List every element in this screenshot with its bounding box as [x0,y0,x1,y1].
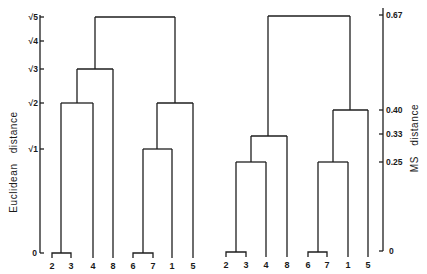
right-tick-label: 0.40 [386,105,403,115]
right-dendrogram: 0.67 0.40 0.33 0.25 0 MS distance [223,8,420,270]
leaf-label: 5 [190,261,195,271]
merge-2-3 [226,252,246,257]
leaf-label: 7 [324,260,329,270]
leaf-label: 6 [130,261,135,271]
left-tick-label: √1 [29,144,39,154]
right-tree-branches [226,16,368,257]
leaf-label: 4 [90,261,95,271]
leaf-label: 3 [68,261,73,271]
dendrogram-figure: √5 √4 √3 √2 √1 0 Euclidean distance [0,0,427,274]
leaf-label: 7 [150,261,155,271]
leaf-label: 2 [223,260,228,270]
right-tick-label: 0.25 [386,157,403,167]
left-axis-title: Euclidean distance [8,111,19,213]
left-tick-label: 0 [32,248,37,258]
leaf-label: 1 [169,261,174,271]
left-tick-label: √3 [29,64,39,74]
leaf-label: 5 [365,260,370,270]
merge-2-3 [52,253,71,258]
left-tick-label: √5 [29,12,39,22]
leaf-label: 1 [345,260,350,270]
right-y-axis: 0.67 0.40 0.33 0.25 0 MS distance [379,8,420,256]
left-dendrogram: √5 √4 √3 √2 √1 0 Euclidean distance [8,12,196,271]
leaf-label: 4 [263,260,268,270]
left-leaf-labels: 2 3 4 8 6 7 1 5 [49,261,195,271]
right-tick-label: 0.67 [386,10,403,20]
left-tick-label: √2 [29,98,39,108]
leaf-label: 6 [305,260,310,270]
leaf-label: 2 [49,261,54,271]
right-leaf-labels: 2 3 4 8 6 7 1 5 [223,260,370,270]
right-axis-title: MS distance [409,104,420,172]
left-y-axis: √5 √4 √3 √2 √1 0 Euclidean distance [8,12,44,258]
right-tick-label: 0 [389,246,394,256]
left-tree-branches [52,17,193,258]
merge-6-7 [308,252,327,257]
leaf-label: 3 [243,260,248,270]
merge-6-7 [133,253,153,258]
leaf-label: 8 [284,260,289,270]
left-tick-label: √4 [29,36,39,46]
right-tick-label: 0.33 [386,129,403,139]
leaf-label: 8 [110,261,115,271]
